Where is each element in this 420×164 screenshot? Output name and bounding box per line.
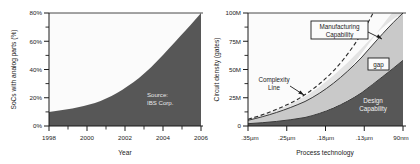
left-y-axis-title: SoCs with analog parts (%) bbox=[10, 30, 18, 110]
left-x-axis-title: Year bbox=[118, 149, 132, 156]
right-x-tick-label-1: .25µm bbox=[278, 134, 295, 141]
left-y-tick-label-80: 80% bbox=[30, 9, 43, 16]
left-x-tick-label-2002: 2002 bbox=[118, 134, 132, 141]
left-y-tick-label-60: 60% bbox=[30, 38, 43, 45]
chart-panel-left: 80% 60% 40% 20% 0% 1998 2000 2002 bbox=[0, 0, 210, 164]
left-chart-svg: 80% 60% 40% 20% 0% 1998 2000 2002 bbox=[0, 0, 210, 164]
right-x-tick-label-4: 90nm bbox=[393, 134, 408, 141]
right-y-tick-label-50m: 50M bbox=[229, 66, 241, 73]
figure-container: 80% 60% 40% 20% 0% 1998 2000 2002 bbox=[0, 0, 420, 164]
source-note-line1: Source: bbox=[147, 91, 168, 98]
right-y-tick-label-100m: 100M bbox=[226, 9, 241, 16]
gap-label: gap bbox=[373, 61, 384, 69]
right-x-tick-label-2: .18µm bbox=[317, 134, 334, 141]
left-x-tick-label-2006: 2006 bbox=[194, 134, 208, 141]
right-y-tick-label-25m: 25M bbox=[229, 94, 241, 101]
left-y-major-ticks bbox=[44, 13, 49, 126]
left-x-tick-label-2000: 2000 bbox=[80, 134, 94, 141]
chart-panel-right: 100M 75M 50M 25M 0 .35µm .25µm .18µm .13… bbox=[210, 0, 420, 164]
gap-callout: gap bbox=[368, 58, 389, 70]
complexity-line-label-line2: Line bbox=[268, 84, 280, 91]
left-y-tick-label-0: 0% bbox=[33, 122, 42, 129]
right-y-major-ticks bbox=[243, 13, 248, 126]
right-chart-svg: 100M 75M 50M 25M 0 .35µm .25µm .18µm .13… bbox=[210, 0, 420, 164]
right-y-tick-label-75m: 75M bbox=[229, 38, 241, 45]
left-x-major-ticks bbox=[49, 126, 201, 131]
right-y-tick-label-0: 0 bbox=[238, 122, 242, 129]
right-y-axis-title: Circuit density (gates) bbox=[213, 38, 221, 102]
left-y-tick-label-40: 40% bbox=[30, 66, 43, 73]
left-x-tick-label-1998: 1998 bbox=[42, 134, 56, 141]
manufacturing-capability-label-line2: Capability bbox=[326, 31, 355, 39]
left-y-tick-label-20: 20% bbox=[30, 94, 43, 101]
right-x-tick-label-0: .35µm bbox=[241, 134, 258, 141]
design-capability-label-line2: Capability bbox=[359, 105, 388, 113]
right-x-major-ticks bbox=[248, 126, 403, 131]
right-x-axis-title: Process technology bbox=[296, 149, 354, 157]
design-capability-label-line1: Design bbox=[363, 97, 383, 105]
right-x-tick-label-3: .13µm bbox=[356, 134, 373, 141]
source-note-line2: IBS Corp. bbox=[147, 99, 174, 106]
left-x-tick-label-2004: 2004 bbox=[156, 134, 170, 141]
